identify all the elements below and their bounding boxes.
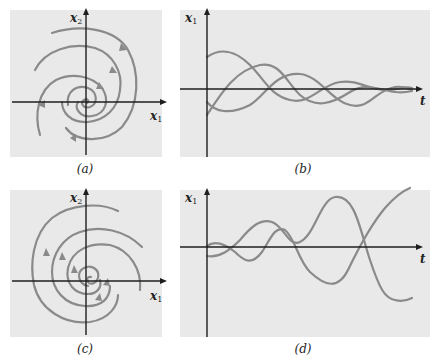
x1-axis-arrow-icon bbox=[160, 278, 167, 284]
arrow-icon bbox=[95, 293, 102, 301]
x1-axis-label: x1 bbox=[150, 110, 162, 124]
arrow-icon bbox=[71, 265, 78, 273]
x2-axis-label: x2 bbox=[70, 192, 82, 206]
arrow-icon bbox=[103, 278, 110, 286]
axes bbox=[180, 14, 416, 157]
x2-axis-label: x2 bbox=[70, 12, 82, 26]
panel-b-time-series: x1 t bbox=[180, 10, 430, 157]
spiral-trajectories bbox=[32, 206, 142, 323]
caption-a: (a) bbox=[77, 162, 94, 176]
t-axis-arrow-icon bbox=[416, 244, 423, 250]
unstable-spiral-plot bbox=[10, 190, 162, 337]
caption-b: (b) bbox=[294, 162, 311, 176]
x2-axis-arrow-icon bbox=[83, 188, 89, 195]
t-axis-arrow-icon bbox=[416, 86, 423, 92]
x1-axis-label: x1 bbox=[185, 12, 197, 26]
panel-c-phase-portrait: x2 x1 bbox=[10, 190, 162, 337]
direction-arrows bbox=[38, 43, 127, 142]
stable-spiral-plot bbox=[10, 10, 162, 157]
growing-oscillation-plot bbox=[180, 190, 430, 337]
x1-axis-arrow-icon bbox=[160, 99, 167, 105]
caption-d: (d) bbox=[294, 342, 311, 356]
x2-axis-arrow-icon bbox=[83, 8, 89, 15]
arrow-icon bbox=[43, 248, 50, 256]
t-axis-label: t bbox=[420, 95, 426, 107]
time-series-curves bbox=[207, 52, 412, 115]
panel-d-time-series: x1 t bbox=[180, 190, 430, 337]
panel-a-phase-portrait: x2 x1 bbox=[10, 10, 162, 157]
arrow-icon bbox=[59, 252, 66, 260]
axes bbox=[12, 14, 160, 155]
caption-c: (c) bbox=[77, 342, 93, 356]
axes bbox=[180, 194, 416, 337]
damped-oscillation-plot bbox=[180, 10, 430, 157]
t-axis-label: t bbox=[420, 253, 426, 265]
time-series-curves bbox=[207, 188, 412, 301]
x1-axis-label: x1 bbox=[185, 192, 197, 206]
x1-axis-arrow-icon bbox=[204, 188, 210, 195]
x1-axis-label: x1 bbox=[150, 290, 162, 304]
axes bbox=[12, 194, 160, 335]
x1-axis-arrow-icon bbox=[204, 8, 210, 15]
